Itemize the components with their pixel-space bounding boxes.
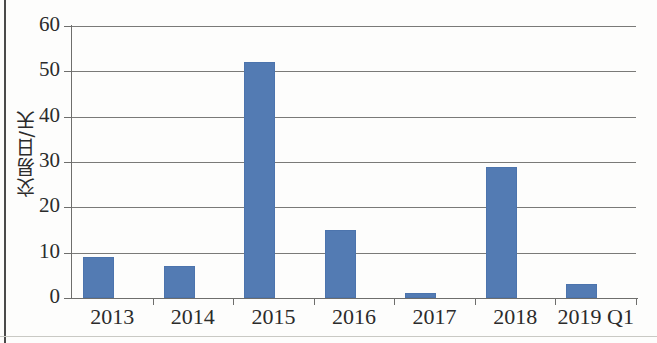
bar xyxy=(566,284,597,298)
page-edge-left-rule xyxy=(4,0,6,343)
y-axis-tick-label: 0 xyxy=(10,284,60,309)
gridline xyxy=(72,26,636,27)
y-axis-tick xyxy=(64,117,72,118)
y-axis-tick xyxy=(64,162,72,163)
chart-figure: 交易日/天 0102030405060 20132014201520162017… xyxy=(0,0,657,343)
y-axis-tick xyxy=(64,26,72,27)
gridline xyxy=(72,207,636,208)
bar xyxy=(325,230,356,298)
bar xyxy=(83,257,114,298)
bar xyxy=(405,293,436,298)
x-axis-category-label: 2019 Q1 xyxy=(555,304,636,330)
gridline xyxy=(72,162,636,163)
page-edge-bottom-rule xyxy=(0,336,657,337)
y-axis-tick-label: 10 xyxy=(10,239,60,264)
y-axis-tick-label: 50 xyxy=(10,57,60,82)
x-axis-line xyxy=(64,298,638,299)
x-axis-tick xyxy=(636,298,637,305)
x-axis-category-label: 2017 xyxy=(394,304,475,330)
y-axis-tick xyxy=(64,298,72,299)
gridline xyxy=(72,71,636,72)
y-axis-tick-label: 20 xyxy=(10,193,60,218)
y-axis-tick xyxy=(64,207,72,208)
x-axis-category-label: 2015 xyxy=(233,304,314,330)
gridline xyxy=(72,117,636,118)
bar xyxy=(244,62,275,298)
plot-area xyxy=(72,26,636,298)
bar xyxy=(164,266,195,298)
bar xyxy=(486,167,517,298)
y-axis-tick xyxy=(64,253,72,254)
y-axis-tick-label: 40 xyxy=(10,103,60,128)
y-axis-tick xyxy=(64,71,72,72)
x-axis-category-label: 2014 xyxy=(153,304,234,330)
y-axis-tick-label: 60 xyxy=(10,12,60,37)
x-axis-category-label: 2013 xyxy=(72,304,153,330)
y-axis-tick-label: 30 xyxy=(10,148,60,173)
x-axis-category-label: 2016 xyxy=(314,304,395,330)
x-axis-category-label: 2018 xyxy=(475,304,556,330)
